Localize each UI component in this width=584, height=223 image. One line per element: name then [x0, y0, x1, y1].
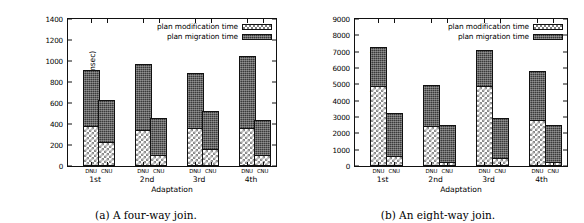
bar-segment-migration [151, 119, 166, 155]
x-axis-group-label-2nd: 2nd [428, 175, 442, 184]
bar-1st-DNU [370, 47, 387, 166]
x-axis-sub-label-CNU: CNU [101, 168, 112, 174]
x-axis-label: Adaptation [440, 185, 482, 194]
bar-segment-migration [255, 121, 270, 156]
bar-segment-migration [387, 114, 402, 156]
x-axis-tick-mark [143, 162, 144, 166]
y-axis-tick-label: 0 [346, 162, 350, 171]
bar-group-2nd: DNUCNU2nd [120, 19, 172, 166]
x-axis-tick-mark [378, 162, 379, 166]
x-axis-sub-label-CNU: CNU [389, 168, 400, 174]
x-axis-tick-mark [263, 162, 264, 166]
x-axis-tick-mark [553, 162, 554, 166]
x-axis-sub-label-DNU: DNU [137, 168, 149, 174]
x-axis-tick-mark [394, 19, 395, 23]
x-axis-tick-mark [91, 19, 92, 23]
bar-1st-CNU [98, 100, 115, 166]
x-axis-tick-mark [537, 162, 538, 166]
x-axis-group-label-3rd: 3rd [193, 175, 206, 184]
x-axis-tick-mark [107, 19, 108, 23]
y-axis-tick-label: 400 [50, 120, 63, 129]
bar-segment-migration [203, 112, 218, 149]
y-axis-tick-label: 1000 [333, 145, 351, 154]
x-axis-tick-mark [484, 162, 485, 166]
x-axis-sub-label-CNU: CNU [205, 168, 216, 174]
bar-group-4th: DNUCNU4th [514, 19, 567, 166]
bar-4th-DNU [239, 56, 256, 166]
bar-segment-migration [493, 119, 508, 158]
y-axis-tick-label: 9000 [333, 15, 351, 24]
bar-segment-modification [84, 126, 99, 165]
y-axis-tick-label: 800 [50, 78, 63, 87]
x-axis-sub-label-CNU: CNU [257, 168, 268, 174]
bar-segment-migration [188, 74, 203, 128]
bar-3rd-CNU [492, 118, 509, 166]
bar-group-1st: DNUCNU1st [68, 19, 120, 166]
bar-segment-migration [136, 65, 151, 129]
bar-segment-migration [84, 71, 99, 126]
bar-segment-migration [99, 101, 114, 141]
bar-segment-modification [188, 128, 203, 165]
plot-area-four-way-join: Execution time (msec) plan modification … [67, 18, 277, 167]
x-axis-group-label-1st: 1st [89, 175, 101, 184]
y-axis-tick-label: 7000 [333, 47, 351, 56]
y-axis-tick-label: 600 [50, 99, 63, 108]
bar-segment-migration [477, 51, 492, 86]
panel-eight-way-join: Execution time (msec) plan modification … [292, 0, 584, 223]
x-axis-sub-label-DNU: DNU [531, 168, 543, 174]
bar-1st-DNU [83, 70, 100, 166]
bar-segment-migration [546, 126, 561, 162]
bar-2nd-CNU [439, 125, 456, 166]
bar-segment-modification [424, 126, 439, 165]
y-axis-tick-label: 1200 [46, 36, 64, 45]
x-axis-tick-mark [143, 19, 144, 23]
bar-2nd-DNU [423, 85, 440, 166]
x-axis-tick-mark [484, 19, 485, 23]
plot-area-eight-way-join: Execution time (msec) plan modification … [354, 18, 568, 167]
y-axis-tick-label: 0 [59, 162, 63, 171]
bar-2nd-CNU [150, 118, 167, 166]
bar-1st-CNU [386, 113, 403, 166]
x-axis-tick-mark [263, 19, 264, 23]
bar-segment-modification [477, 86, 492, 165]
y-axis-tick-label: 3000 [333, 113, 351, 122]
x-axis-tick-mark [107, 162, 108, 166]
bar-group-3rd: DNUCNU3rd [461, 19, 514, 166]
bar-segment-modification [371, 86, 386, 165]
panel-caption-eight-way-join: (b) An eight-way join. [292, 209, 584, 221]
bar-group-4th: DNUCNU4th [224, 19, 276, 166]
bar-segment-migration [240, 57, 255, 129]
bar-group-2nd: DNUCNU2nd [408, 19, 461, 166]
x-axis-tick-mark [247, 19, 248, 23]
x-axis-sub-label-DNU: DNU [425, 168, 437, 174]
bar-4th-DNU [529, 71, 546, 166]
x-axis-group-label-2nd: 2nd [140, 175, 154, 184]
bar-segment-migration [530, 72, 545, 120]
x-axis-tick-mark [500, 162, 501, 166]
x-axis-tick-mark [159, 19, 160, 23]
y-axis-tick-label: 2000 [333, 129, 351, 138]
bar-segment-migration [424, 86, 439, 127]
x-axis-tick-mark [537, 19, 538, 23]
x-axis-tick-mark [431, 162, 432, 166]
x-axis-tick-mark [378, 19, 379, 23]
x-axis-sub-label-DNU: DNU [372, 168, 384, 174]
panel-caption-four-way-join: (a) A four-way join. [0, 209, 292, 221]
bar-2nd-DNU [135, 64, 152, 166]
x-axis-label: Adaptation [151, 185, 193, 194]
bar-segment-migration [371, 48, 386, 85]
bar-3rd-DNU [476, 50, 493, 166]
bar-group-3rd: DNUCNU3rd [172, 19, 224, 166]
bar-4th-CNU [545, 125, 562, 166]
y-axis-tick-label: 1000 [46, 57, 64, 66]
x-axis-tick-mark [211, 19, 212, 23]
x-axis-tick-mark [500, 19, 501, 23]
x-axis-sub-label-DNU: DNU [478, 168, 490, 174]
x-axis-tick-mark [195, 19, 196, 23]
x-axis-sub-label-DNU: DNU [241, 168, 253, 174]
bar-3rd-CNU [202, 111, 219, 166]
x-axis-tick-mark [91, 162, 92, 166]
x-axis-sub-label-DNU: DNU [189, 168, 201, 174]
bar-segment-migration [440, 126, 455, 163]
x-axis-sub-label-CNU: CNU [548, 168, 559, 174]
